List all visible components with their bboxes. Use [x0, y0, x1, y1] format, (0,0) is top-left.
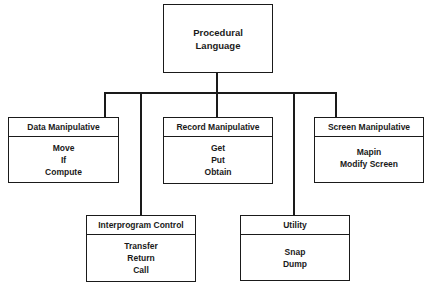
connector-data-manipulative [104, 92, 106, 118]
item-mapin: Mapin [357, 146, 382, 158]
node-utility: Utility Snap Dump [240, 215, 350, 281]
connector-record-manipulative [216, 92, 218, 118]
node-title: Data Manipulative [9, 118, 118, 137]
item-get: Get [211, 142, 225, 154]
item-dump: Dump [283, 258, 307, 270]
node-screen-manipulative: Screen Manipulative Mapin Modify Screen [314, 117, 424, 183]
root-label-line-2: Language [196, 39, 241, 52]
node-items: Move If Compute [9, 137, 118, 178]
node-data-manipulative: Data Manipulative Move If Compute [8, 117, 119, 183]
item-obtain: Obtain [205, 166, 232, 178]
item-compute: Compute [45, 166, 82, 178]
node-title: Interprogram Control [87, 216, 195, 235]
node-title: Record Manipulative [164, 118, 272, 137]
node-items: Transfer Return Call [87, 235, 195, 276]
connector-utility [293, 92, 295, 216]
item-call: Call [133, 264, 149, 276]
connector-root-down [216, 73, 218, 93]
item-return: Return [127, 252, 154, 264]
node-items: Get Put Obtain [164, 137, 272, 178]
node-title: Utility [241, 216, 349, 235]
node-items: Mapin Modify Screen [315, 137, 423, 170]
item-transfer: Transfer [124, 240, 158, 252]
item-if: If [61, 154, 66, 166]
item-move: Move [53, 142, 75, 154]
root-label-line-1: Procedural [193, 26, 243, 39]
node-items: Snap Dump [241, 235, 349, 270]
node-record-manipulative: Record Manipulative Get Put Obtain [163, 117, 273, 184]
item-put: Put [211, 154, 225, 166]
connector-horizontal-bus [104, 92, 336, 94]
item-snap: Snap [285, 246, 306, 258]
item-modify-screen: Modify Screen [340, 158, 398, 170]
connector-screen-manipulative [335, 92, 337, 118]
root-node-procedural-language: Procedural Language [163, 4, 273, 73]
node-title: Screen Manipulative [315, 118, 423, 137]
node-interprogram-control: Interprogram Control Transfer Return Cal… [86, 215, 196, 282]
connector-interprogram-control [140, 92, 142, 216]
